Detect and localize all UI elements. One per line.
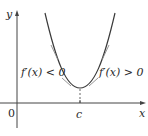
y-axis-label: y xyxy=(6,9,12,20)
x-axis xyxy=(0,101,146,105)
critical-point-label: c xyxy=(76,109,82,120)
positive-derivative-label: f′(x) > 0 xyxy=(99,67,144,78)
y-axis-arrow-icon xyxy=(15,10,19,16)
y-axis xyxy=(15,10,19,128)
origin-label: 0 xyxy=(8,108,15,119)
x-axis-label: x xyxy=(139,108,145,119)
x-axis-arrow-icon xyxy=(140,101,146,105)
derivative-sign-diagram: y x 0 c f′(x) < 0 f′(x) > 0 xyxy=(0,0,148,136)
negative-derivative-label: f′(x) < 0 xyxy=(21,67,66,78)
